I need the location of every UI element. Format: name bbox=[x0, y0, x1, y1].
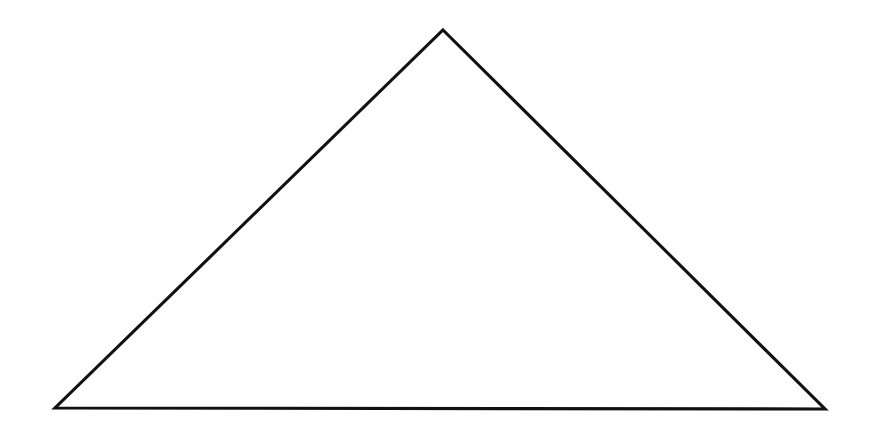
figure-canvas bbox=[0, 0, 874, 447]
background-rect bbox=[0, 0, 874, 447]
triangle-figure-svg bbox=[0, 0, 874, 447]
